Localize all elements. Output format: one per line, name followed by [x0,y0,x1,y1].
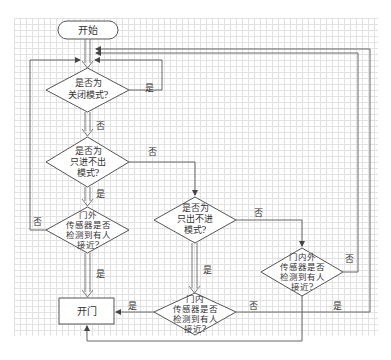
label-d4-yes: 是 [203,265,212,275]
svg-text:关闭模式?: 关闭模式? [68,89,109,100]
label-d3-no: 否 [33,217,42,227]
flowchart: 开始 是否为 关闭模式? 是 否 是否为 只进不出 模式? 否 是 门外 传感器… [0,0,391,360]
svg-text:门外: 门外 [79,210,97,220]
svg-text:传感器是否: 传感器是否 [280,262,325,272]
process-open-door: 开门 [59,298,114,324]
label-d5-yes: 是 [128,301,137,311]
label-d1-yes: 是 [145,83,154,93]
svg-text:是否为: 是否为 [75,145,102,156]
label-d5-no: 否 [249,301,258,311]
decision-entry-only-mode: 是否为 只进不出 模式? [46,137,129,187]
svg-text:开门: 开门 [77,305,97,317]
svg-text:接近?: 接近? [77,240,100,250]
label-d4-no: 否 [254,208,263,218]
start-node: 开始 [58,21,118,39]
svg-text:只出不进: 只出不进 [177,213,213,224]
decision-outside-sensor: 门外 传感器是否 检测到有人 接近? [46,207,129,253]
svg-text:门内外: 门内外 [289,252,316,262]
label-d2-yes: 是 [96,189,105,199]
svg-text:是否为: 是否为 [182,202,209,213]
svg-text:检测到有人: 检测到有人 [173,314,218,324]
double-arrow [82,187,93,206]
decision-exit-only-mode: 是否为 只出不进 模式? [154,197,236,243]
double-arrow [189,243,200,293]
svg-text:门内: 门内 [186,294,204,304]
label-d6-yes: 是 [333,301,342,311]
svg-text:是否为: 是否为 [75,77,102,88]
svg-text:只进不出: 只进不出 [70,156,106,167]
label-d3-yes: 是 [96,269,105,279]
label-d6-no: 否 [345,254,354,264]
svg-text:传感器是否: 传感器是否 [66,220,111,230]
decision-inside-sensor: 门内 传感器是否 检测到有人 接近? [154,293,236,335]
label-d1-no: 否 [96,121,105,131]
svg-text:接近?: 接近? [291,282,314,292]
decision-closed-mode: 是否为 关闭模式? [46,68,129,112]
double-arrow [82,253,93,297]
decision-both-sensors: 门内外 传感器是否 检测到有人 接近? [261,248,343,296]
double-arrow [82,112,93,136]
label-d2-no: 否 [148,147,157,157]
svg-text:模式?: 模式? [77,167,100,178]
svg-text:检测到有人: 检测到有人 [280,272,325,282]
svg-text:模式?: 模式? [184,224,207,235]
svg-text:检测到有人: 检测到有人 [66,230,111,240]
double-arrow [82,39,93,68]
svg-text:接近?: 接近? [184,324,207,334]
start-label: 开始 [78,24,98,36]
svg-text:传感器是否: 传感器是否 [173,304,218,314]
